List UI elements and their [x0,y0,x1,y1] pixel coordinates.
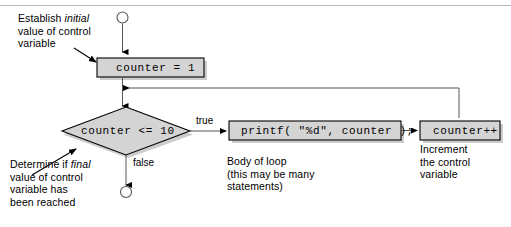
annotation-increment-line1: Increment [420,143,470,156]
annotation-determine-line3: variable has [10,183,91,196]
annotation-pointer-establish [74,48,96,62]
edge-loopback [129,88,459,118]
condition-diamond-label: counter <= 10 [81,125,175,137]
annotation-determine-line1: Determine if final [10,158,91,171]
init-box-label: counter = 1 [116,62,195,74]
annotation-determine-line1-em: final [71,158,91,170]
annotation-increment: Increment the control variable [420,143,470,181]
body-box-label: printf( "%d", counter ); [241,125,414,137]
annotation-establish-line1-em: initial [65,12,90,24]
flowchart-canvas: counter = 1 counter <= 10 printf( "%d", … [0,0,511,227]
annotation-body-line1: Body of loop [227,155,314,168]
annotation-establish-line1: Establish initial [18,12,91,25]
annotation-determine: Determine if final value of control vari… [10,158,91,208]
annotation-body-line2: (this may be many [227,168,314,181]
annotation-increment-line3: variable [420,168,470,181]
start-terminal-circle [117,12,128,23]
annotation-increment-line2: the control [420,156,470,169]
annotation-determine-line1-pre: Determine if [10,158,71,170]
annotation-establish-line2: value of control [18,25,91,38]
annotation-body-line3: statements) [227,180,314,193]
annotation-establish-line1-pre: Establish [18,12,65,24]
increment-box-label: counter++ [433,125,498,137]
annotation-establish: Establish initial value of control varia… [18,12,91,50]
annotation-determine-line4: been reached [10,196,91,209]
annotation-determine-line2: value of control [10,171,91,184]
end-terminal-circle [121,187,132,198]
edge-label-false: false [133,157,154,168]
annotation-body-of-loop: Body of loop (this may be many statement… [227,155,314,193]
annotation-establish-line3: variable [18,37,91,50]
edge-label-true: true [196,115,213,126]
